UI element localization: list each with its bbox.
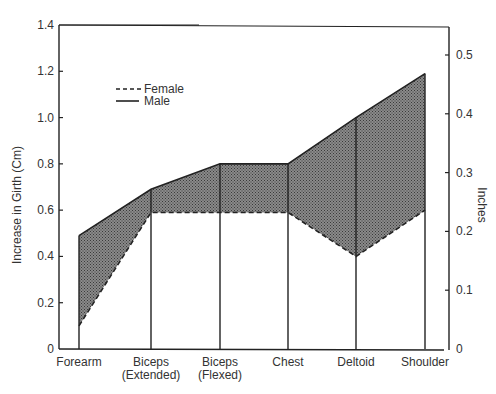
left-tick-label: 0.8 <box>37 157 54 171</box>
legend: Female Male <box>116 82 184 108</box>
y-axis-label-right: Inches <box>475 187 489 222</box>
right-tick-label: 0.3 <box>456 166 473 180</box>
girth-increase-chart: 00.20.40.60.81.01.21.4 00.10.20.30.40.5 … <box>0 0 496 394</box>
x-axis-label: Forearm <box>56 355 101 369</box>
male-female-difference-fill <box>79 74 425 326</box>
left-tick-label: 0.2 <box>37 296 54 310</box>
legend-male-label: Male <box>144 94 170 108</box>
left-tick-label: 0.6 <box>37 203 54 217</box>
left-tick-label: 0.4 <box>37 249 54 263</box>
right-tick-label: 0.4 <box>456 107 473 121</box>
x-axis-label: Biceps(Flexed) <box>198 355 242 382</box>
left-tick-label: 1.2 <box>37 64 54 78</box>
left-tick-label: 1.4 <box>37 18 54 32</box>
shaded-difference-area <box>79 74 425 326</box>
chart-canvas: 00.20.40.60.81.01.21.4 00.10.20.30.40.5 … <box>0 0 496 394</box>
right-tick-label: 0.5 <box>456 48 473 62</box>
bottom-axis <box>59 349 444 350</box>
right-tick-label: 0.1 <box>456 283 473 297</box>
top-border-full <box>59 25 449 27</box>
x-axis-label: Deltoid <box>337 355 374 369</box>
right-tick-label: 0.2 <box>456 224 473 238</box>
x-axis-label: Chest <box>272 355 304 369</box>
x-axis-labels: ForearmBiceps(Extended)Biceps(Flexed)Che… <box>56 355 449 382</box>
right-tick-label: 0 <box>456 342 463 356</box>
y-axis-label-left: Increase in Girth (Cm) <box>10 146 24 264</box>
x-axis-label: Shoulder <box>401 355 449 369</box>
x-axis-label: Biceps(Extended) <box>122 355 181 382</box>
left-tick-label: 0 <box>47 342 54 356</box>
left-tick-label: 1.0 <box>37 111 54 125</box>
